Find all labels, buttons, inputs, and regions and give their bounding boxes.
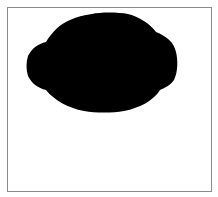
blob-canvas [0, 0, 218, 197]
black-blob-shape [27, 13, 178, 113]
